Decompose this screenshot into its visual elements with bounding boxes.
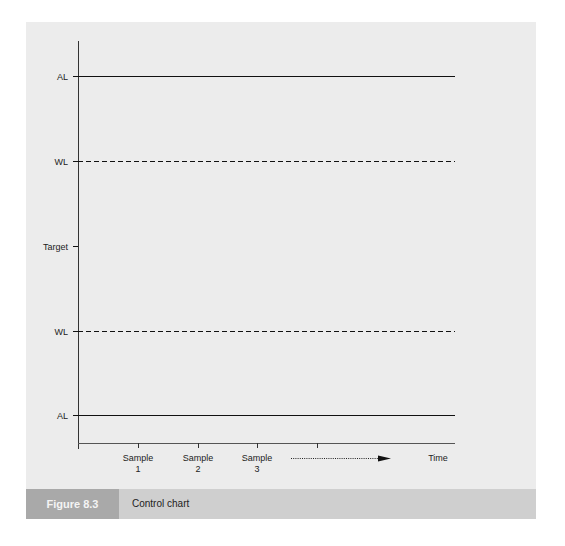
sample-2-label: Sample	[183, 453, 214, 463]
control-chart: AL WL Target WL AL Sample 1 Sample 2 Sam…	[0, 0, 565, 546]
time-label: Time	[428, 453, 448, 463]
figure-caption-bar: Figure 8.3 Control chart	[26, 489, 536, 519]
figure-number: Figure 8.3	[26, 489, 119, 519]
sample-2-number: 2	[195, 464, 200, 474]
sample-1-label: Sample	[123, 453, 154, 463]
time-arrow-head-icon	[378, 456, 391, 462]
upper-action-limit-label: AL	[57, 72, 68, 82]
sample-1-number: 1	[135, 464, 140, 474]
lower-action-limit-label: AL	[57, 411, 68, 421]
lower-warning-limit-label: WL	[55, 327, 69, 337]
sample-3-number: 3	[254, 464, 259, 474]
upper-warning-limit-label: WL	[55, 157, 69, 167]
target-label: Target	[43, 242, 69, 252]
sample-3-label: Sample	[242, 453, 273, 463]
figure-caption: Control chart	[132, 489, 189, 519]
